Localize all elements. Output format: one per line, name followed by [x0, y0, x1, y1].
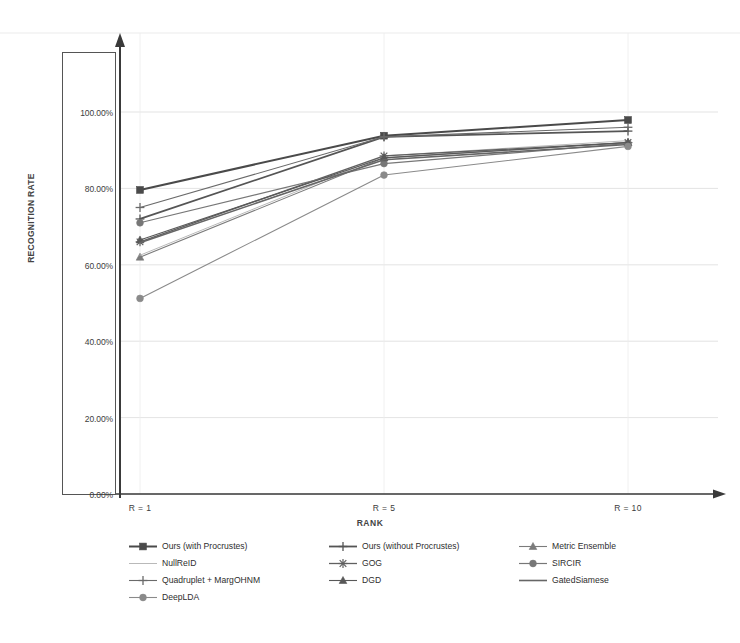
legend-item[interactable]: Ours (without Procrustes) — [328, 541, 518, 552]
legend-row: Quadruplet + MargOHNMDGDGatedSiamese — [128, 572, 728, 589]
chart-legend: Ours (with Procrustes)Ours (without Proc… — [128, 538, 728, 606]
legend-marker-icon — [328, 558, 358, 569]
y-axis-tick-label: 40.00% — [85, 337, 113, 347]
legend-item[interactable]: SIRCIR — [518, 558, 718, 569]
y-axis-tick-label: 80.00% — [85, 184, 113, 194]
axis-lines — [115, 33, 726, 499]
legend-item[interactable]: GOG — [328, 558, 518, 569]
y-axis-tick-label: 0.00% — [89, 490, 113, 500]
legend-marker-icon — [128, 558, 158, 569]
legend-item[interactable]: NullReID — [128, 558, 328, 569]
x-axis-title: RANK — [0, 518, 740, 528]
legend-label: Quadruplet + MargOHNM — [162, 576, 260, 585]
legend-marker-icon — [328, 541, 358, 552]
legend-label: Ours (with Procrustes) — [162, 542, 247, 551]
legend-marker-icon — [518, 541, 548, 552]
legend-label: Metric Ensemble — [552, 542, 616, 551]
chart-container: RECOGNITION RATE 0.00%20.00%40.00%60.00%… — [0, 0, 740, 643]
y-axis-tick-label: 100.00% — [80, 108, 113, 118]
legend-row: DeepLDA — [128, 589, 728, 606]
legend-label: SIRCIR — [552, 559, 581, 568]
legend-row: Ours (with Procrustes)Ours (without Proc… — [128, 538, 728, 555]
legend-item[interactable]: Metric Ensemble — [518, 541, 718, 552]
y-axis-tick-label: 20.00% — [85, 414, 113, 424]
legend-label: GatedSiamese — [552, 576, 609, 585]
legend-marker-icon — [328, 575, 358, 586]
legend-item[interactable]: GatedSiamese — [518, 575, 718, 586]
legend-label: GOG — [362, 559, 382, 568]
x-axis-tick-label: R = 10 — [614, 503, 642, 513]
legend-marker-icon — [518, 558, 548, 569]
legend-item[interactable]: DeepLDA — [128, 592, 328, 603]
legend-marker-icon — [518, 575, 548, 586]
legend-label: NullReID — [162, 559, 196, 568]
legend-label: DeepLDA — [162, 593, 199, 602]
y-axis-tick-labels: 0.00%20.00%40.00%60.00%80.00%100.00% — [62, 52, 116, 495]
legend-item[interactable]: Ours (with Procrustes) — [128, 541, 328, 552]
x-axis-tick-label: R = 1 — [129, 503, 152, 513]
legend-label: DGD — [362, 576, 381, 585]
legend-item[interactable]: DGD — [328, 575, 518, 586]
legend-marker-icon — [128, 541, 158, 552]
legend-label: Ours (without Procrustes) — [362, 542, 459, 551]
legend-row: NullReIDGOGSIRCIR — [128, 555, 728, 572]
legend-marker-icon — [128, 575, 158, 586]
legend-marker-icon — [128, 592, 158, 603]
x-axis-tick-label: R = 5 — [373, 503, 396, 513]
legend-item[interactable]: Quadruplet + MargOHNM — [128, 575, 328, 586]
y-axis-title: RECOGNITION RATE — [26, 158, 36, 278]
y-axis-tick-label: 60.00% — [85, 261, 113, 271]
